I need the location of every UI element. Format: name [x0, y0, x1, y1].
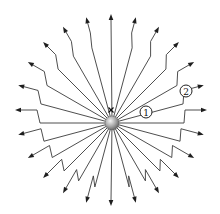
arrowhead-icon	[18, 131, 24, 135]
field-line	[85, 17, 112, 123]
field-line	[28, 62, 112, 123]
field-line	[63, 123, 112, 193]
arrowhead-icon	[188, 62, 194, 67]
field-line	[28, 123, 112, 158]
field-line-diagram: 12	[0, 0, 220, 214]
arrowhead-icon	[201, 108, 207, 113]
arrowhead-icon	[18, 84, 24, 88]
arrowhead-icon	[28, 62, 34, 67]
arrowhead-icon	[154, 187, 159, 193]
label-1: 1	[140, 106, 152, 118]
arrowhead-icon	[63, 27, 68, 33]
arrowhead-icon	[85, 196, 89, 202]
arrowhead-icon	[109, 200, 114, 206]
field-line	[112, 123, 204, 141]
field-line	[18, 123, 112, 141]
old-position-cross-icon	[109, 108, 114, 113]
field-line	[109, 14, 114, 123]
field-line	[18, 84, 112, 123]
arrowhead-icon	[28, 153, 34, 158]
field-line	[109, 123, 114, 206]
label-text: 2	[183, 87, 189, 97]
field-line	[112, 27, 159, 123]
field-line	[43, 42, 112, 123]
field-line	[112, 123, 194, 158]
arrowhead-icon	[132, 17, 136, 23]
arrowhead-icon	[154, 27, 159, 33]
field-line	[43, 123, 112, 178]
arrowhead-icon	[188, 153, 194, 158]
charge-sphere-icon	[105, 116, 119, 130]
field-line	[112, 17, 137, 123]
arrowhead-icon	[197, 131, 203, 135]
arrowhead-icon	[132, 196, 136, 202]
label-2: 2	[180, 85, 192, 97]
label-text: 1	[143, 108, 149, 118]
arrowhead-icon	[197, 84, 203, 88]
arrowhead-icon	[109, 14, 114, 20]
arrowhead-icon	[85, 17, 89, 23]
arrowhead-icon	[15, 108, 21, 113]
arrowhead-icon	[63, 187, 68, 193]
